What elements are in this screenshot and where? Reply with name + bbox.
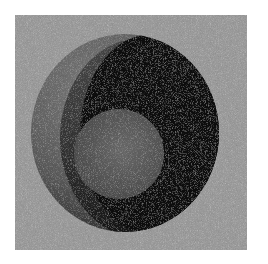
inner-disc xyxy=(74,109,164,199)
artwork-canvas: Abstract grayscale artwork: noisy textur… xyxy=(0,0,268,264)
abstract-circle-artwork xyxy=(0,0,268,264)
